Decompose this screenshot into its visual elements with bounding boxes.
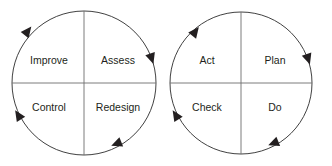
diagram-canvas: Improve Assess Control Redesign Act Plan… bbox=[0, 0, 332, 166]
cycle-improve-assess-control-redesign: Improve Assess Control Redesign bbox=[11, 11, 158, 155]
cycle-2-arrow-lower-right-icon bbox=[266, 137, 280, 150]
cycle-2-quadrant-bottom-right-label: Do bbox=[268, 101, 282, 113]
cycle-1-quadrant-bottom-left-label: Control bbox=[32, 101, 66, 113]
cycle-1-arrow-lower-right-icon bbox=[109, 137, 123, 150]
cycle-2-arrow-upper-left-icon bbox=[188, 24, 203, 39]
cycle-2-arrow-right-icon bbox=[302, 53, 315, 66]
cycle-1-quadrant-top-left-label: Improve bbox=[30, 54, 68, 66]
cycle-1-quadrant-bottom-right-label: Redesign bbox=[96, 101, 141, 113]
cycle-1-quadrant-top-right-label: Assess bbox=[101, 54, 135, 66]
cycle-2-quadrant-top-left-label: Act bbox=[199, 54, 214, 66]
cycle-1-arrow-upper-left-icon bbox=[21, 24, 36, 39]
cycle-pdca: Act Plan Check Do bbox=[168, 12, 314, 154]
cycle-2-quadrant-bottom-left-label: Check bbox=[192, 101, 223, 113]
cycle-2-quadrant-top-right-label: Plan bbox=[264, 54, 285, 66]
cycle-1-arrow-lower-left-icon bbox=[11, 108, 25, 123]
cycle-1-arrow-right-icon bbox=[145, 52, 158, 65]
cycle-diagram-svg: Improve Assess Control Redesign Act Plan… bbox=[0, 0, 332, 166]
